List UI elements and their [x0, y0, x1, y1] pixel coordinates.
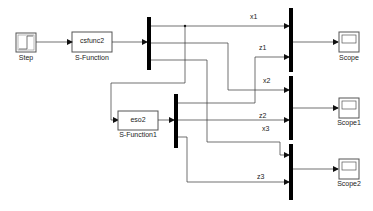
- signal-label-z1: z1: [259, 44, 266, 51]
- sfunction1-text: eso2: [118, 116, 158, 123]
- sfunction-text: csfunc2: [72, 37, 112, 44]
- demux2-block[interactable]: [174, 94, 178, 148]
- step-label: Step: [6, 54, 46, 61]
- scope2-block[interactable]: [339, 159, 359, 179]
- mux2-block[interactable]: [289, 76, 293, 140]
- step-block[interactable]: [16, 33, 36, 52]
- scope-block[interactable]: [339, 32, 359, 52]
- signal-x3: [151, 60, 289, 155]
- scope2-label: Scope2: [329, 180, 369, 187]
- mux1-block[interactable]: [289, 8, 293, 72]
- mux3-block[interactable]: [289, 144, 293, 200]
- simulink-diagram-canvas: [0, 0, 373, 211]
- signal-label-x1: x1: [250, 13, 257, 20]
- signal-label-z2: z2: [259, 112, 266, 119]
- scope-icon: [342, 35, 356, 43]
- scope-icon: [342, 101, 356, 109]
- signal-label-x3: x3: [262, 125, 269, 132]
- signal-z3: [178, 137, 289, 182]
- scope1-block[interactable]: [339, 98, 359, 118]
- signal-z1: [178, 57, 289, 103]
- signal-label-z3: z3: [257, 173, 264, 180]
- scope-label: Scope: [329, 54, 369, 61]
- sfunction-label: S-Function: [62, 54, 122, 61]
- demux1-block[interactable]: [147, 17, 151, 70]
- scope-icon: [342, 162, 356, 170]
- sfunction1-label: S-Function1: [108, 131, 168, 138]
- signal-label-x2: x2: [263, 77, 270, 84]
- scope1-label: Scope1: [329, 119, 369, 126]
